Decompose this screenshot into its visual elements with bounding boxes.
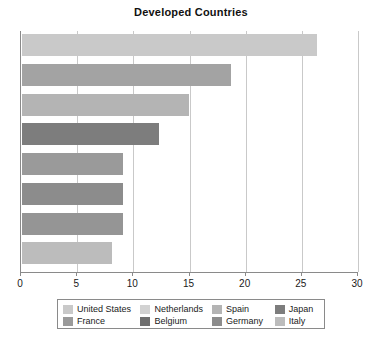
bar	[22, 34, 317, 56]
bar	[22, 123, 159, 145]
bar	[22, 183, 123, 205]
x-tick-label: 15	[183, 278, 194, 289]
legend-item[interactable]: United States	[63, 303, 140, 315]
legend-item[interactable]: France	[63, 315, 140, 327]
legend: United StatesNetherlandsSpainJapan Franc…	[57, 299, 325, 329]
legend-item[interactable]: Italy	[275, 315, 319, 327]
bar-chart: Developed Countries 051015202530 United …	[0, 0, 382, 345]
chart-title: Developed Countries	[0, 6, 382, 18]
legend-swatch-icon	[275, 305, 285, 314]
legend-label: Belgium	[154, 315, 187, 327]
x-tick-mark	[245, 272, 246, 276]
x-tick-mark	[189, 272, 190, 276]
legend-row: United StatesNetherlandsSpainJapan	[63, 303, 319, 315]
legend-label: Netherlands	[154, 303, 203, 315]
legend-swatch-icon	[63, 305, 73, 314]
x-tick-mark	[132, 272, 133, 276]
gridline	[358, 31, 359, 272]
x-tick-mark	[357, 272, 358, 276]
legend-label: France	[77, 315, 105, 327]
x-tick-label: 10	[127, 278, 138, 289]
bar	[22, 64, 231, 86]
bar	[22, 213, 123, 235]
legend-swatch-icon	[140, 305, 150, 314]
x-tick-label: 20	[239, 278, 250, 289]
legend-swatch-icon	[275, 317, 285, 326]
legend-label: United States	[77, 303, 131, 315]
plot-area	[20, 31, 358, 273]
x-tick-label: 5	[73, 278, 79, 289]
legend-item[interactable]: Spain	[212, 303, 275, 315]
legend-item[interactable]: Japan	[275, 303, 319, 315]
x-tick-label: 30	[351, 278, 362, 289]
legend-label: Spain	[226, 303, 249, 315]
bar	[22, 94, 189, 116]
bar	[22, 242, 112, 264]
legend-swatch-icon	[140, 317, 150, 326]
legend-row: FranceBelgiumGermanyItaly	[63, 315, 319, 327]
x-tick-mark	[20, 272, 21, 276]
bar	[22, 153, 123, 175]
legend-item[interactable]: Belgium	[140, 315, 212, 327]
legend-label: Japan	[289, 303, 314, 315]
legend-item[interactable]: Netherlands	[140, 303, 212, 315]
x-tick-label: 25	[295, 278, 306, 289]
legend-swatch-icon	[212, 305, 222, 314]
legend-label: Italy	[289, 315, 306, 327]
legend-swatch-icon	[63, 317, 73, 326]
x-tick-label: 0	[17, 278, 23, 289]
gridline	[302, 31, 303, 272]
x-tick-mark	[76, 272, 77, 276]
legend-swatch-icon	[212, 317, 222, 326]
legend-label: Germany	[226, 315, 263, 327]
gridline	[246, 31, 247, 272]
x-tick-mark	[301, 272, 302, 276]
legend-item[interactable]: Germany	[212, 315, 275, 327]
